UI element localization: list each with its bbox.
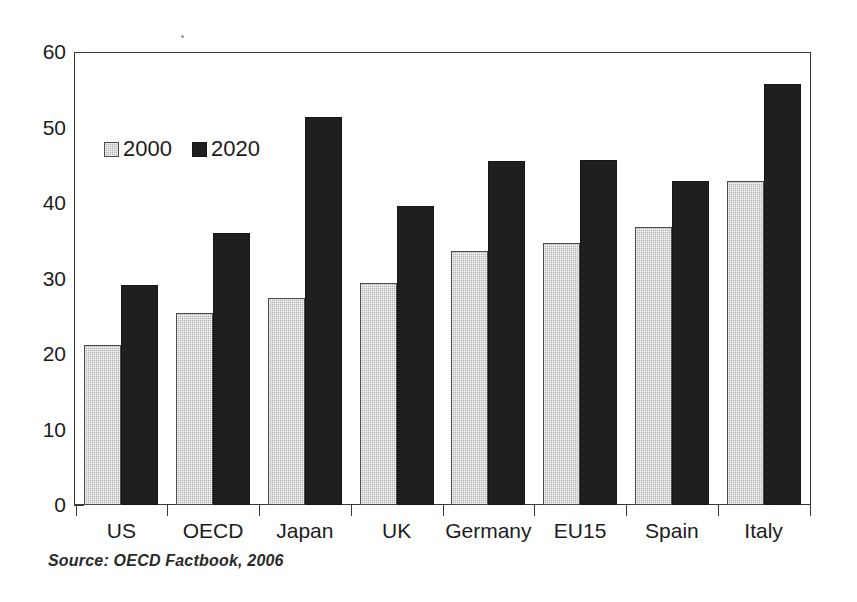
bar-spain-2000[interactable] bbox=[635, 227, 672, 505]
bar-eu15-2000[interactable] bbox=[543, 243, 580, 505]
bar-germany-2020[interactable] bbox=[488, 161, 525, 505]
plot-area bbox=[76, 54, 810, 506]
bar-uk-2000[interactable] bbox=[360, 283, 397, 505]
x-axis-label-italy: Italy bbox=[718, 519, 810, 543]
bar-group bbox=[167, 54, 259, 506]
legend-label-2000: 2000 bbox=[123, 138, 172, 160]
x-axis-label-germany: Germany bbox=[443, 519, 535, 543]
bar-japan-2020[interactable] bbox=[305, 117, 342, 505]
legend-swatch-2020-icon bbox=[192, 142, 207, 157]
x-tick-mark bbox=[810, 505, 811, 516]
chart-figure: 60 50 40 30 20 10 0 USOECDJapanUKGermany… bbox=[0, 0, 857, 602]
chart-legend: 2000 2020 bbox=[104, 138, 260, 160]
x-tick-mark bbox=[259, 505, 260, 516]
x-axis-label-spain: Spain bbox=[626, 519, 718, 543]
bar-spain-2020[interactable] bbox=[672, 181, 709, 505]
y-tick-label-0: 0 bbox=[22, 494, 66, 515]
x-axis-label-uk: UK bbox=[351, 519, 443, 543]
bar-eu15-2020[interactable] bbox=[580, 160, 617, 505]
source-note: Source: OECD Factbook, 2006 bbox=[48, 552, 284, 570]
bar-italy-2020[interactable] bbox=[764, 84, 801, 505]
bar-italy-2000[interactable] bbox=[727, 181, 764, 505]
bar-germany-2000[interactable] bbox=[451, 251, 488, 505]
bar-us-2020[interactable] bbox=[121, 285, 158, 505]
legend-entry-2020[interactable]: 2020 bbox=[192, 138, 260, 160]
y-tick-label-50: 50 bbox=[22, 117, 66, 138]
x-tick-mark bbox=[167, 505, 168, 516]
bar-oecd-2020[interactable] bbox=[213, 233, 250, 505]
scan-artifact-speck bbox=[181, 35, 184, 38]
bar-group bbox=[718, 54, 810, 506]
x-axis-label-us: US bbox=[76, 519, 168, 543]
legend-swatch-2000-icon bbox=[104, 142, 119, 157]
y-tick-label-40: 40 bbox=[22, 192, 66, 213]
bar-group bbox=[626, 54, 718, 506]
x-axis-label-oecd: OECD bbox=[167, 519, 259, 543]
x-tick-mark bbox=[626, 505, 627, 516]
x-tick-mark bbox=[351, 505, 352, 516]
bar-group bbox=[259, 54, 351, 506]
x-axis-label-japan: Japan bbox=[259, 519, 351, 543]
x-tick-mark bbox=[76, 505, 77, 516]
x-axis-label-eu15: EU15 bbox=[534, 519, 626, 543]
bar-oecd-2000[interactable] bbox=[176, 313, 213, 505]
y-tick-label-20: 20 bbox=[22, 343, 66, 364]
y-tick-label-30: 30 bbox=[22, 268, 66, 289]
legend-label-2020: 2020 bbox=[211, 138, 260, 160]
bar-group bbox=[534, 54, 626, 506]
bar-us-2000[interactable] bbox=[84, 345, 121, 505]
bar-uk-2020[interactable] bbox=[397, 206, 434, 505]
x-tick-mark bbox=[534, 505, 535, 516]
y-axis: 60 50 40 30 20 10 0 bbox=[10, 0, 66, 602]
legend-entry-2000[interactable]: 2000 bbox=[104, 138, 172, 160]
bar-group bbox=[443, 54, 535, 506]
x-tick-mark bbox=[718, 505, 719, 516]
bar-group bbox=[351, 54, 443, 506]
bar-japan-2000[interactable] bbox=[268, 298, 305, 505]
y-tick-label-10: 10 bbox=[22, 419, 66, 440]
bar-group bbox=[76, 54, 168, 506]
x-tick-mark bbox=[443, 505, 444, 516]
y-tick-label-60: 60 bbox=[22, 41, 66, 62]
